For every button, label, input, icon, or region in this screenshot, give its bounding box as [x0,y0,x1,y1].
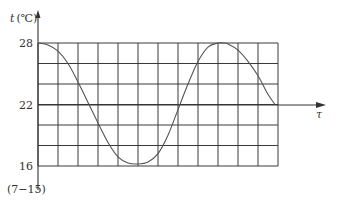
x-axis-label: τ [316,108,323,121]
y-tick-labels: 162228 [19,37,33,173]
y-axis-label: t(℃) [10,12,37,25]
chart: τ t(℃) 162228 (7−15) [0,0,337,214]
annotation: (7−15) [7,183,46,196]
y-tick-label: 16 [19,160,33,173]
y-tick-label: 28 [19,37,33,50]
y-tick-label: 22 [19,99,33,112]
